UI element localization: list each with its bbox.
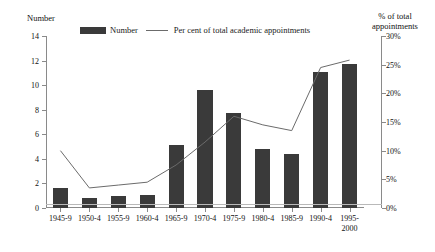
x-axis-tick-label: 1970-4 [194,214,217,224]
legend-label-percent: Per cent of total academic appointments [174,25,310,35]
x-axis-tick-label: 1955-9 [107,214,130,224]
left-axis-tick-label: 6 [35,130,39,139]
x-axis-tick-label: 1945-9 [49,214,72,224]
right-axis-title: % of total appointments [359,12,431,31]
x-axis-tick-label: 1965-9 [165,214,188,224]
line-path [60,60,349,188]
right-axis-tick-label: 25% [386,60,401,69]
x-axis-tick-label: 1990-4 [309,214,332,224]
left-axis-tick-label: 8 [35,105,39,114]
legend-line-swatch-icon [146,30,168,31]
x-axis-tick [292,208,293,212]
left-axis-tick-label: 10 [31,81,39,90]
x-axis-tick [234,208,235,212]
x-axis-tick-label: 1995- 2000 [340,214,359,233]
x-axis-tick [89,208,90,212]
right-axis-tick-label: 10% [386,146,401,155]
right-axis-tick-label: 20% [386,89,401,98]
right-axis-tick-label: 15% [386,118,401,127]
legend-entry-number: Number [80,25,138,35]
legend-label-number: Number [110,25,138,35]
left-axis-tick-label: 12 [31,56,39,65]
left-axis-tick-label: 0 [35,204,39,213]
right-axis-tick-label: 30% [386,32,401,41]
left-axis-tick-label: 4 [35,154,39,163]
chart-legend: Number Per cent of total academic appoin… [80,25,310,35]
legend-bar-swatch-icon [80,27,106,34]
x-axis-tick-label: 1975-9 [223,214,246,224]
right-axis-tick-label: 5% [386,175,397,184]
x-axis-tick [60,208,61,212]
left-axis-title: Number [27,14,55,24]
x-axis-tick-label: 1985-9 [280,214,303,224]
x-axis-tick-label: 1960-4 [136,214,159,224]
x-axis-tick [147,208,148,212]
legend-entry-percent: Per cent of total academic appointments [144,25,310,35]
zero-baseline-rule [46,204,382,205]
x-axis-tick-label: 1950-4 [78,214,101,224]
left-axis-tick [42,208,46,209]
x-axis-tick [176,208,177,212]
left-axis-tick-label: 2 [35,179,39,188]
right-axis-tick-label: 0% [386,204,397,213]
x-axis-tick [263,208,264,212]
left-axis-tick-label: 14 [31,32,39,41]
x-axis-tick [350,208,351,212]
x-axis-tick [321,208,322,212]
x-axis-tick [118,208,119,212]
plot-area: 02468101214 0%5%10%15%20%25%30% 1945-919… [46,36,364,208]
x-axis-tick [205,208,206,212]
x-axis-tick-label: 1980-4 [251,214,274,224]
line-series [46,36,364,208]
chart-container: Number % of total appointments Number Pe… [0,0,435,252]
